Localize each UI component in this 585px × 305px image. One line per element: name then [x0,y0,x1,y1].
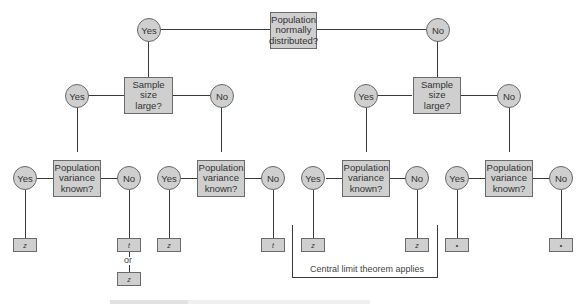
connector [366,107,367,152]
connector [173,95,210,96]
root-yes-node: Yes [137,18,161,42]
variance-question-3: Population variance known? [342,160,390,197]
variance-question-2: Population variance known? [197,160,245,197]
sample-right-no-node: No [497,84,521,108]
sample-size-question-right: Sample size large? [413,77,461,114]
sample-left-yes-node: Yes [65,84,89,108]
connector [37,178,53,179]
connector [461,95,498,96]
connector [533,178,550,179]
connector [101,178,118,179]
central-limit-label: Central limit theorem applies [310,264,424,274]
connector [129,190,130,238]
connector [457,190,458,238]
connector [469,178,485,179]
connector [245,178,262,179]
connector [317,29,429,30]
variance-3-no-node: No [405,166,429,190]
connector [160,29,270,30]
variance-4-yes-node: Yes [445,166,469,190]
connector [326,178,342,179]
connector [377,95,412,96]
variance-1-yes-node: Yes [13,166,37,190]
variance-2-yes-node: Yes [157,166,181,190]
variance-1-no-node: No [117,166,141,190]
variance-2-no-node: No [261,166,285,190]
connector [437,41,438,77]
connector [25,190,26,238]
connector [221,107,222,152]
leaf-z-1: z [13,238,37,252]
sample-right-yes-node: Yes [354,84,378,108]
connector [129,265,130,272]
connector [148,41,149,77]
root-no-node: No [426,18,450,42]
leaf-t-1: t [117,238,141,252]
connector [561,190,562,238]
decision-tree-diagram: Population normally distributed? Yes No … [0,0,585,305]
variance-3-yes-node: Yes [301,166,325,190]
or-label: or [124,255,132,265]
leaf-t-2: t [261,238,285,252]
variance-4-no-node: No [549,166,573,190]
root-question-box: Population normally distributed? [270,12,317,49]
connector [181,178,197,179]
leaf-none-1: • [445,238,469,252]
variance-question-1: Population variance known? [53,160,101,197]
caption-fragment [110,300,370,304]
variance-question-4: Population variance known? [485,160,533,197]
sample-left-no-node: No [210,84,234,108]
sample-size-question-left: Sample size large? [124,77,173,114]
connector [77,107,78,152]
connector [88,95,124,96]
connector [509,107,510,152]
connector [273,190,274,238]
leaf-z-alt: z [117,272,141,286]
leaf-z-2: z [157,238,181,252]
leaf-none-2: • [549,238,573,252]
connector [169,190,170,238]
